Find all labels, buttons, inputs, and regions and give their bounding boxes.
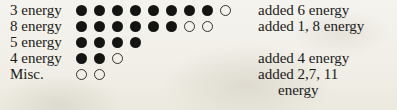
filled-circle-icon <box>112 37 123 48</box>
filled-circle-icon <box>166 21 177 32</box>
tally-row: 3 energyadded 6 energy <box>0 2 397 18</box>
filled-circle-icon <box>94 5 105 16</box>
row-category-label: 5 energy <box>10 34 72 50</box>
filled-circle-icon <box>148 5 159 16</box>
open-circle-icon <box>184 21 195 32</box>
row-annotation-text: added 4 energy <box>258 50 349 66</box>
tally-row: energy <box>0 82 397 98</box>
filled-circle-icon <box>130 5 141 16</box>
filled-circle-icon <box>202 5 213 16</box>
filled-circle-icon <box>94 37 105 48</box>
filled-circle-icon <box>76 21 87 32</box>
filled-circle-icon <box>112 21 123 32</box>
row-category-label: 4 energy <box>10 50 72 66</box>
tally-row: Misc.added 2,7, 11 <box>0 66 397 82</box>
tally-dot-track <box>76 34 148 50</box>
tally-row: 8 energyadded 1, 8 energy <box>0 18 397 34</box>
filled-circle-icon <box>166 5 177 16</box>
energy-tally-sheet: 3 energyadded 6 energy8 energyadded 1, 8… <box>0 0 397 110</box>
row-category-label: 3 energy <box>10 2 72 18</box>
filled-circle-icon <box>76 5 87 16</box>
tally-dot-track <box>76 2 238 18</box>
filled-circle-icon <box>184 5 195 16</box>
row-annotation-text: added 6 energy <box>258 2 349 18</box>
open-circle-icon <box>220 5 231 16</box>
filled-circle-icon <box>94 21 105 32</box>
filled-circle-icon <box>130 21 141 32</box>
filled-circle-icon <box>112 5 123 16</box>
tally-dot-track <box>76 50 130 66</box>
filled-circle-icon <box>94 53 105 64</box>
filled-circle-icon <box>76 37 87 48</box>
row-category-label: 8 energy <box>10 18 72 34</box>
filled-circle-icon <box>148 21 159 32</box>
tally-dot-track <box>76 18 220 34</box>
row-category-label: Misc. <box>10 66 72 82</box>
open-circle-icon <box>112 53 123 64</box>
open-circle-icon <box>76 69 87 80</box>
tally-dot-track <box>76 66 112 82</box>
tally-row: 4 energyadded 4 energy <box>0 50 397 66</box>
filled-circle-icon <box>76 53 87 64</box>
open-circle-icon <box>94 69 105 80</box>
open-circle-icon <box>202 21 213 32</box>
row-annotation-text: added 1, 8 energy <box>258 18 364 34</box>
row-annotation-text: added 2,7, 11 <box>258 66 338 82</box>
filled-circle-icon <box>130 37 141 48</box>
tally-row: 5 energy <box>0 34 397 50</box>
row-annotation-text: energy <box>278 82 319 98</box>
